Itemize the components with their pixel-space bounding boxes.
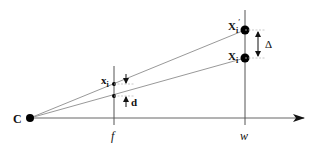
label-depth: w (240, 129, 248, 143)
projection-diagram: C f w xi d Xi′ Xi Δ (0, 0, 322, 147)
ray-lower (30, 58, 245, 118)
label-disparity-d: d (131, 96, 137, 108)
ray-upper (30, 30, 245, 118)
camera-center-point (26, 114, 34, 122)
label-center: C (13, 112, 22, 126)
label-disparity-delta: Δ (265, 38, 272, 50)
label-focal: f (111, 129, 116, 143)
